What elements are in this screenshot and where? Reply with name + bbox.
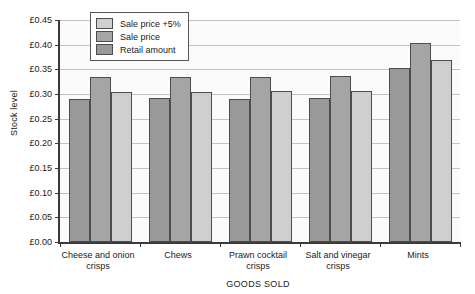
y-tick-label: £0.45 — [0, 15, 52, 25]
bar — [309, 98, 330, 242]
y-tick-label: £0.05 — [0, 212, 52, 222]
legend-label: Sale price — [120, 32, 160, 42]
chart-legend: Sale price +5%Sale priceRetail amount — [90, 12, 189, 61]
bar — [250, 77, 271, 242]
x-category-label: Mints — [378, 250, 458, 282]
x-category-label: Chews — [138, 250, 218, 282]
bar — [330, 76, 351, 242]
y-tick-label: £0.25 — [0, 114, 52, 124]
bar — [410, 43, 431, 242]
legend-item: Retail amount — [96, 43, 181, 56]
x-axis-title: GOODS SOLD — [58, 279, 458, 289]
legend-swatch — [96, 31, 113, 42]
y-tick-label: £0.35 — [0, 64, 52, 74]
legend-label: Retail amount — [120, 45, 176, 55]
x-tick-mark — [300, 242, 301, 247]
bar — [111, 92, 132, 242]
x-tick-mark — [380, 242, 381, 247]
bar — [191, 92, 212, 242]
x-tick-mark — [60, 242, 61, 247]
y-tick-label: £0.00 — [0, 237, 52, 247]
bar — [271, 91, 292, 242]
y-tick-label: £0.10 — [0, 188, 52, 198]
legend-item: Sale price — [96, 30, 181, 43]
y-tick-label: £0.30 — [0, 89, 52, 99]
bar — [431, 60, 452, 242]
x-category-label: Cheese and onion crisps — [58, 250, 138, 282]
bar-group — [220, 20, 300, 242]
bar-chart: Stock level £0.45£0.40£0.35£0.30£0.25£0.… — [0, 0, 475, 294]
bar-group — [380, 20, 460, 242]
bar — [229, 99, 250, 242]
x-tick-mark — [140, 242, 141, 247]
x-category-label: Salt and vinegar crisps — [298, 250, 378, 282]
legend-label: Sale price +5% — [120, 19, 181, 29]
bar — [69, 99, 90, 242]
legend-item: Sale price +5% — [96, 17, 181, 30]
bar — [389, 68, 410, 242]
x-axis-category-labels: Cheese and onion crispsChewsPrawn cockta… — [58, 250, 458, 282]
bar — [170, 77, 191, 242]
y-tick-label: £0.20 — [0, 138, 52, 148]
bar — [149, 98, 170, 242]
bar — [351, 91, 372, 242]
legend-swatch — [96, 18, 113, 29]
y-tick-label: £0.40 — [0, 40, 52, 50]
legend-swatch — [96, 44, 113, 55]
x-tick-mark — [460, 242, 461, 247]
bar — [90, 77, 111, 242]
x-category-label: Prawn cocktail crisps — [218, 250, 298, 282]
x-tick-mark — [220, 242, 221, 247]
y-tick-label: £0.15 — [0, 163, 52, 173]
bar-group — [300, 20, 380, 242]
